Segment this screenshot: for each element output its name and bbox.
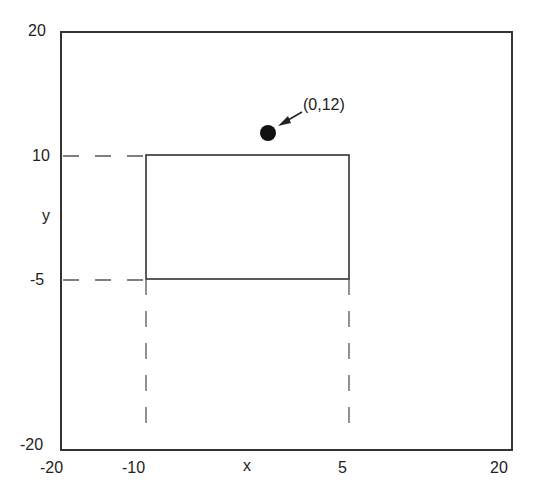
- x-tick-20: 20: [490, 460, 508, 476]
- x-axis-label: x: [243, 458, 251, 474]
- y-tick-10: 10: [32, 148, 50, 164]
- region-rectangle: [146, 155, 349, 279]
- y-tick-neg20: -20: [20, 437, 43, 453]
- diagram-canvas: [0, 0, 534, 500]
- x-tick-neg20: -20: [40, 460, 63, 476]
- y-tick-neg5: -5: [30, 272, 44, 288]
- x-tick-neg10: -10: [122, 460, 145, 476]
- plot-frame: [61, 32, 512, 450]
- y-axis-label: y: [42, 208, 50, 224]
- x-tick-5: 5: [338, 460, 347, 476]
- point-label: (0,12): [303, 97, 345, 113]
- y-tick-20: 20: [28, 23, 46, 39]
- arrow-icon: [278, 112, 302, 126]
- point-marker: [260, 125, 276, 141]
